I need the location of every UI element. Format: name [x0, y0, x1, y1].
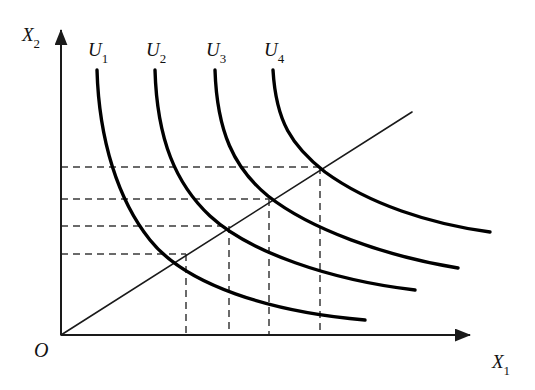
curve-label-u2: U2: [146, 40, 166, 64]
indifference-curve-u4: [273, 70, 490, 232]
indifference-curve-u2: [155, 70, 415, 290]
curve-label-u4: U4: [264, 40, 284, 64]
indifference-curve-u1: [97, 70, 365, 320]
indifference-curve-u3: [215, 70, 458, 268]
curve-label-u1: U1: [88, 40, 108, 64]
indifference-curves: [97, 70, 490, 320]
y-axis-label: X2: [22, 25, 40, 49]
horizontal-guide-lines: [61, 167, 320, 254]
curve-label-u3: U3: [206, 40, 226, 64]
indifference-curve-figure: X1 X2 O U1U2U3U4: [0, 0, 535, 390]
x-axis-label: X1: [492, 352, 510, 376]
forty-five-degree-ray: [61, 112, 412, 335]
origin-label: O: [34, 340, 48, 360]
